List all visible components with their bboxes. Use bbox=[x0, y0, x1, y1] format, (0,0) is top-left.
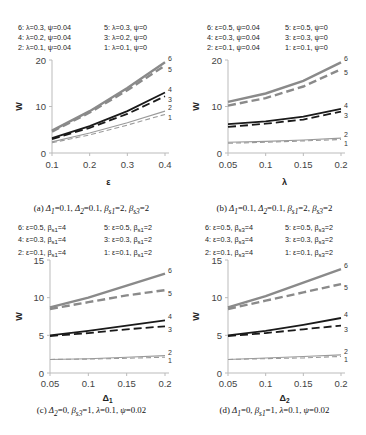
series-end-label: 3 bbox=[344, 112, 348, 119]
series-end-label: 1 bbox=[168, 357, 172, 364]
y-axis-label: W bbox=[191, 102, 201, 111]
plot-d: 0510150.050.10.150.2Δ2W123456 bbox=[183, 215, 366, 435]
plot-b: 010200.050.10.150.2λW123456 bbox=[183, 0, 366, 215]
x-tick-label: 0.2 bbox=[334, 159, 347, 170]
y-tick-label: 10 bbox=[211, 101, 222, 112]
series-end-label: 5 bbox=[168, 290, 172, 297]
series-end-label: 3 bbox=[344, 326, 348, 333]
series-end-label: 4 bbox=[168, 86, 172, 93]
y-tick-label: 0 bbox=[217, 148, 222, 159]
y-axis-label: W bbox=[14, 312, 24, 321]
series-end-label: 3 bbox=[168, 96, 172, 103]
series-line-5 bbox=[228, 284, 341, 309]
series-end-label: 2 bbox=[344, 348, 348, 355]
series-end-label: 4 bbox=[168, 313, 172, 320]
x-axis-label: Δ1 bbox=[102, 393, 112, 404]
x-tick-label: 0.3 bbox=[121, 159, 134, 170]
x-tick-label: 0.1 bbox=[259, 378, 272, 389]
x-tick-label: 0.15 bbox=[294, 159, 313, 170]
series-end-label: 6 bbox=[344, 55, 348, 62]
y-tick-label: 0 bbox=[217, 368, 222, 379]
series-end-label: 5 bbox=[168, 66, 172, 73]
caption-d: (d) Δ1=0, βs1=1, λ=0.1, ψ=0.02 bbox=[183, 405, 366, 418]
series-end-label: 1 bbox=[344, 356, 348, 363]
caption-c: (c) Δ2=0, βs3=1, λ=0.1, ψ=0.02 bbox=[0, 405, 183, 418]
y-tick-label: 15 bbox=[33, 255, 44, 266]
series-end-label: 4 bbox=[344, 311, 348, 318]
x-tick-label: 0.1 bbox=[82, 378, 95, 389]
series-line-6 bbox=[50, 274, 165, 308]
series-line-6 bbox=[52, 62, 165, 130]
series-end-label: 2 bbox=[168, 349, 172, 356]
y-axis-label: W bbox=[191, 312, 201, 321]
x-tick-label: 0.15 bbox=[294, 378, 313, 389]
x-tick-label: 0.2 bbox=[334, 378, 347, 389]
chart-panel-a: 6: λ=0.3, ψ=0.04 4: λ=0.2, ψ=0.04 2: λ=0… bbox=[0, 0, 183, 215]
y-tick-label: 10 bbox=[211, 292, 222, 303]
y-tick-label: 0 bbox=[41, 148, 46, 159]
series-end-label: 3 bbox=[168, 326, 172, 333]
x-axis-label: λ bbox=[282, 177, 287, 187]
x-axis-label: ε bbox=[106, 177, 111, 187]
series-end-label: 2 bbox=[344, 131, 348, 138]
series-end-label: 4 bbox=[344, 102, 348, 109]
series-end-label: 1 bbox=[168, 114, 172, 121]
x-tick-label: 0.1 bbox=[45, 159, 58, 170]
x-tick-label: 0.2 bbox=[158, 378, 171, 389]
x-tick-label: 0.1 bbox=[259, 159, 272, 170]
plot-c: 0510150.050.10.150.2Δ1W123456 bbox=[0, 215, 183, 435]
y-tick-label: 15 bbox=[211, 255, 222, 266]
y-tick-label: 20 bbox=[35, 55, 46, 66]
x-tick-label: 0.2 bbox=[83, 159, 96, 170]
x-tick-label: 0.05 bbox=[219, 378, 238, 389]
caption-b: (b) Δ1=0.1, Δ2=0.1, βs1=2, βs3=2 bbox=[183, 203, 366, 216]
y-tick-label: 20 bbox=[211, 55, 222, 66]
chart-panel-b: 6: ε=0.5, ψ=0.04 4: ε=0.3, ψ=0.04 2: ε=0… bbox=[183, 0, 366, 215]
plot-a: 010200.10.20.30.4εW123456 bbox=[0, 0, 183, 215]
series-end-label: 5 bbox=[344, 284, 348, 291]
y-tick-label: 5 bbox=[39, 330, 44, 341]
x-tick-label: 0.15 bbox=[117, 378, 136, 389]
x-tick-label: 0.05 bbox=[219, 159, 238, 170]
chart-panel-d: 6: ε=0.5, βs3=4 4: ε=0.3, βs3=4 2: ε=0.1… bbox=[183, 215, 366, 435]
series-line-6 bbox=[228, 62, 341, 102]
y-axis-label: W bbox=[14, 102, 24, 111]
y-tick-label: 5 bbox=[217, 330, 222, 341]
y-tick-label: 10 bbox=[33, 292, 44, 303]
x-tick-label: 0.05 bbox=[41, 378, 60, 389]
series-end-label: 1 bbox=[344, 140, 348, 147]
series-line-5 bbox=[50, 290, 165, 309]
series-end-label: 6 bbox=[168, 267, 172, 274]
x-axis-label: Δ2 bbox=[279, 393, 289, 404]
series-end-label: 6 bbox=[168, 55, 172, 62]
x-tick-label: 0.4 bbox=[158, 159, 171, 170]
y-tick-label: 10 bbox=[35, 101, 46, 112]
series-end-label: 5 bbox=[344, 69, 348, 76]
series-end-label: 6 bbox=[344, 262, 348, 269]
series-line-4 bbox=[228, 109, 341, 124]
series-line-2 bbox=[52, 111, 165, 142]
caption-a: (a) Δ1=0.1, Δ2=0.1, βs1=2, βs3=2 bbox=[0, 203, 183, 216]
y-tick-label: 0 bbox=[39, 368, 44, 379]
series-end-label: 2 bbox=[168, 104, 172, 111]
chart-panel-c: 6: ε=0.5, βs1=4 4: ε=0.3, βs1=4 2: ε=0.1… bbox=[0, 215, 183, 435]
